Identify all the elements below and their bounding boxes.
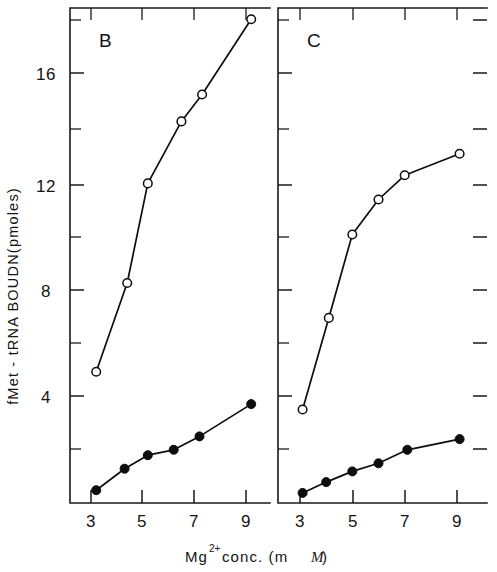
x-axis-title-middle: conc. (m bbox=[222, 548, 288, 565]
data-point-filled-circle bbox=[455, 435, 464, 444]
data-point-open-circle bbox=[123, 279, 132, 288]
data-point-filled-circle bbox=[247, 400, 256, 409]
data-point-filled-circle bbox=[322, 478, 331, 487]
panel-b: B 16 12 8 4 3 5 7 9 bbox=[36, 8, 270, 531]
data-point-filled-circle bbox=[298, 488, 307, 497]
figure-container: B 16 12 8 4 3 5 7 9 bbox=[0, 0, 497, 572]
y-tick-label-16: 16 bbox=[36, 65, 56, 84]
data-point-open-circle bbox=[144, 179, 153, 188]
y-tick-label-4: 4 bbox=[41, 388, 51, 407]
panel-c-label: C bbox=[307, 30, 322, 51]
data-point-filled-circle bbox=[143, 451, 152, 460]
panel-b-top-ticks bbox=[91, 8, 246, 20]
data-point-filled-circle bbox=[120, 464, 129, 473]
x-tick-label-7: 7 bbox=[189, 512, 199, 531]
panel-c-axis-frame bbox=[278, 8, 487, 503]
series-open-circle bbox=[298, 150, 464, 414]
data-point-open-circle bbox=[298, 405, 307, 414]
x-tick-label-9: 9 bbox=[452, 512, 462, 531]
series-line bbox=[96, 19, 251, 372]
panel-b-y-major-ticks bbox=[70, 73, 84, 396]
panel-c: C 3 5 7 9 bbox=[278, 8, 487, 531]
panel-c-x-tick-labels: 3 5 7 9 bbox=[295, 512, 462, 531]
panel-b-y-minor-ticks bbox=[70, 20, 81, 449]
data-point-open-circle bbox=[92, 368, 101, 377]
x-tick-label-7: 7 bbox=[400, 512, 410, 531]
series-filled-circle bbox=[298, 435, 464, 498]
data-point-open-circle bbox=[374, 195, 383, 204]
panel-b-label: B bbox=[99, 30, 113, 51]
panel-c-y-minor-ticks bbox=[278, 20, 289, 449]
two-panel-line-chart: B 16 12 8 4 3 5 7 9 bbox=[0, 0, 497, 572]
data-point-open-circle bbox=[400, 171, 409, 180]
data-point-open-circle bbox=[177, 117, 186, 126]
series-line bbox=[303, 154, 460, 410]
panel-c-y-major-ticks bbox=[278, 73, 292, 396]
panel-b-x-tick-labels: 3 5 7 9 bbox=[86, 512, 251, 531]
data-point-open-circle bbox=[325, 314, 334, 323]
data-point-open-circle bbox=[348, 230, 357, 239]
panel-c-series-layer bbox=[298, 150, 464, 498]
y-axis-title-text: fMet - tRNA BOUDN(pmoles) bbox=[5, 187, 21, 405]
y-axis-title: fMet - tRNA BOUDN(pmoles) bbox=[5, 187, 21, 405]
data-point-filled-circle bbox=[92, 486, 101, 495]
data-point-open-circle bbox=[198, 90, 207, 99]
data-point-filled-circle bbox=[169, 445, 178, 454]
x-tick-label-9: 9 bbox=[241, 512, 251, 531]
y-tick-label-8: 8 bbox=[41, 282, 51, 301]
panel-c-x-ticks bbox=[300, 490, 457, 503]
x-axis-title-close: ) bbox=[322, 548, 328, 565]
x-tick-label-5: 5 bbox=[137, 512, 147, 531]
series-filled-circle bbox=[92, 400, 256, 495]
panel-b-axis-frame bbox=[70, 8, 270, 503]
panel-b-x-ticks bbox=[91, 490, 246, 503]
x-axis-title-charge: 2+ bbox=[209, 543, 221, 554]
x-tick-label-3: 3 bbox=[86, 512, 96, 531]
data-point-filled-circle bbox=[403, 445, 412, 454]
data-point-filled-circle bbox=[195, 432, 204, 441]
x-axis-title-element: Mg bbox=[185, 548, 208, 565]
panel-c-top-ticks bbox=[300, 8, 457, 20]
series-open-circle bbox=[92, 15, 256, 376]
panel-c-right-ticks bbox=[473, 20, 487, 449]
data-point-filled-circle bbox=[348, 467, 357, 476]
x-tick-label-3: 3 bbox=[295, 512, 305, 531]
data-point-filled-circle bbox=[374, 459, 383, 468]
x-tick-label-5: 5 bbox=[348, 512, 358, 531]
panel-b-series-layer bbox=[92, 15, 256, 495]
y-tick-label-12: 12 bbox=[36, 177, 56, 196]
data-point-open-circle bbox=[247, 15, 256, 24]
x-axis-title: Mg 2+ conc. (m M ) bbox=[185, 543, 328, 565]
data-point-open-circle bbox=[455, 150, 464, 159]
panel-b-y-tick-labels: 16 12 8 4 bbox=[36, 65, 56, 407]
